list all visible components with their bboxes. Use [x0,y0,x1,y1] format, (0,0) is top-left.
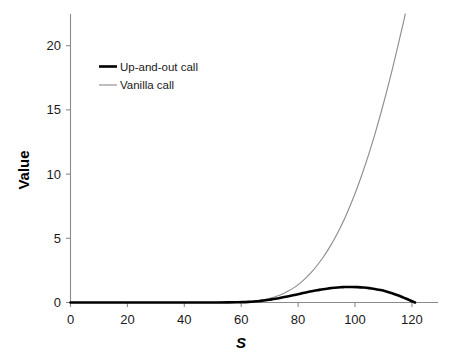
y-tick-label-10: 10 [47,167,61,182]
y-tick-label-15: 15 [47,102,61,117]
chart-figure: 0 5 10 15 20 Value 0 20 [0,0,451,360]
x-tick-label-100: 100 [344,312,366,327]
y-tick-label-5: 5 [54,231,61,246]
y-tick-label-0: 0 [54,295,61,310]
x-tick-label-80: 80 [291,312,305,327]
y-axis-title: Value [15,150,32,189]
legend-label-vanilla-call: Vanilla call [120,79,174,91]
line-chart-svg: 0 5 10 15 20 Value 0 20 [0,0,451,360]
x-tick-label-60: 60 [234,312,248,327]
legend-label-up-and-out-call: Up-and-out call [120,61,198,73]
x-tick-label-40: 40 [177,312,191,327]
plot-background [0,0,451,360]
x-tick-label-0: 0 [67,312,74,327]
x-tick-label-120: 120 [401,312,423,327]
y-tick-label-20: 20 [47,38,61,53]
x-axis-title: S [236,334,246,351]
x-tick-label-20: 20 [120,312,134,327]
